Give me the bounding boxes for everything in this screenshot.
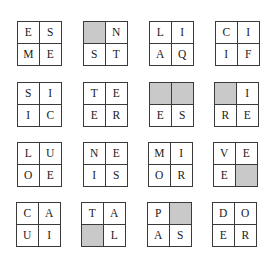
tile-cell: E	[18, 22, 40, 44]
tile-box: C I I F	[215, 21, 260, 66]
tile-box: N E I S	[83, 142, 128, 187]
tile-box: T A L	[81, 202, 126, 247]
tile-cell: S	[106, 165, 128, 187]
tile-cell: O	[235, 203, 257, 225]
tile-cell: I	[172, 22, 194, 44]
tile-cell: E	[214, 165, 236, 187]
tile-cell: A	[150, 44, 172, 66]
tile-cell: S	[84, 44, 106, 66]
tile-box: L U O E	[17, 142, 62, 187]
shaded-cell	[84, 22, 106, 44]
tile-cell: E	[236, 143, 258, 165]
tile-cell: I	[18, 105, 40, 127]
tile-box: E S	[149, 82, 194, 127]
tile-cell: A	[148, 225, 170, 247]
tile-box: L I A Q	[149, 21, 194, 66]
tile-cell: S	[172, 105, 194, 127]
tile-box: P A S	[147, 202, 192, 247]
tile-cell: S	[18, 83, 40, 105]
tile-box: T E E R	[83, 82, 128, 127]
shaded-cell	[172, 83, 194, 105]
tile-box: M I O R	[148, 142, 193, 187]
tile-cell: S	[40, 22, 62, 44]
tile-cell: R	[215, 105, 237, 127]
tile-box: C A U I	[16, 202, 61, 247]
tile-cell: I	[84, 165, 106, 187]
tile-cell: I	[216, 44, 238, 66]
tile-cell: M	[149, 143, 171, 165]
tile-cell: T	[84, 83, 106, 105]
shaded-cell	[215, 83, 237, 105]
tile-cell: O	[149, 165, 171, 187]
tile-cell: Q	[172, 44, 194, 66]
tile-box: S I I C	[17, 82, 62, 127]
tile-cell: E	[213, 225, 235, 247]
letter-tile-puzzle: E S M E N S T L I A Q C I I F S I I C T …	[0, 0, 274, 264]
tile-cell: P	[148, 203, 170, 225]
tile-cell: I	[238, 22, 260, 44]
tile-cell: A	[39, 203, 61, 225]
shaded-cell	[82, 225, 104, 247]
tile-cell: D	[213, 203, 235, 225]
tile-box: V E E	[213, 142, 258, 187]
tile-box: N S T	[83, 21, 128, 66]
tile-cell: E	[106, 143, 128, 165]
tile-cell: E	[150, 105, 172, 127]
tile-cell: N	[106, 22, 128, 44]
tile-cell: E	[84, 105, 106, 127]
tile-cell: L	[104, 225, 126, 247]
tile-cell: T	[106, 44, 128, 66]
tile-cell: U	[17, 225, 39, 247]
tile-box: D O E R	[212, 202, 257, 247]
tile-cell: L	[18, 143, 40, 165]
tile-cell: A	[104, 203, 126, 225]
tile-cell: C	[40, 105, 62, 127]
tile-cell: U	[40, 143, 62, 165]
tile-cell: R	[235, 225, 257, 247]
tile-cell: M	[18, 44, 40, 66]
tile-cell: C	[17, 203, 39, 225]
shaded-cell	[150, 83, 172, 105]
tile-cell: C	[216, 22, 238, 44]
tile-cell: E	[237, 105, 259, 127]
tile-cell: R	[171, 165, 193, 187]
tile-cell: V	[214, 143, 236, 165]
tile-cell: N	[84, 143, 106, 165]
tile-cell: E	[106, 83, 128, 105]
shaded-cell	[236, 165, 258, 187]
tile-cell: O	[18, 165, 40, 187]
tile-cell: I	[40, 83, 62, 105]
tile-cell: E	[40, 165, 62, 187]
tile-cell: I	[171, 143, 193, 165]
tile-cell: S	[170, 225, 192, 247]
tile-cell: T	[82, 203, 104, 225]
tile-cell: F	[238, 44, 260, 66]
tile-cell: E	[40, 44, 62, 66]
tile-cell: R	[106, 105, 128, 127]
tile-cell: I	[237, 83, 259, 105]
tile-box: E S M E	[17, 21, 62, 66]
tile-cell: I	[39, 225, 61, 247]
tile-box: I R E	[214, 82, 259, 127]
shaded-cell	[170, 203, 192, 225]
tile-cell: L	[150, 22, 172, 44]
